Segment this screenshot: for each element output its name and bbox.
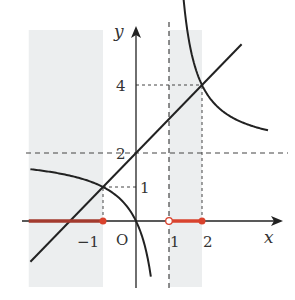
x-tick-label-0: −1	[77, 233, 99, 251]
y-axis-label: y	[113, 21, 124, 41]
x-tick-label-2: 2	[203, 233, 213, 251]
x-axis-label: x	[264, 227, 274, 247]
closed-endpoint-1	[199, 218, 206, 225]
y-tick-label-0: 1	[140, 179, 150, 197]
y-tick-label-1: 2	[116, 145, 126, 163]
y-tick-label-2: 4	[116, 77, 126, 95]
chart: x y O −112124	[0, 0, 295, 300]
origin-label: O	[116, 231, 128, 249]
open-endpoint-1	[166, 218, 173, 225]
x-tick-label-1: 1	[170, 233, 180, 251]
closed-endpoint-0	[100, 218, 107, 225]
